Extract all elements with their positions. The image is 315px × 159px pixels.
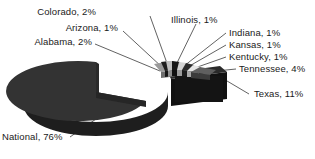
leader-line-indiana [184, 33, 226, 66]
slice-label-tennessee: Tennessee, 4% [239, 63, 305, 74]
slice-label-alabama: Alabama, 2% [34, 36, 92, 47]
slice-national-top [6, 61, 146, 121]
slice-label-arizona: Arizona, 1% [66, 22, 118, 33]
slice-label-illinois: Illinois, 1% [171, 14, 218, 25]
leader-line-alabama [95, 44, 160, 71]
slice-label-colorado: Colorado, 2% [37, 6, 96, 17]
slice-label-indiana: Indiana, 1% [229, 27, 280, 38]
slice-national [6, 61, 168, 136]
slice-label-national: National, 76% [2, 131, 62, 142]
slice-texas-face [175, 76, 223, 102]
slice-label-texas: Texas, 11% [254, 88, 303, 99]
slice-label-kansas: Kansas, 1% [229, 39, 281, 50]
slice-label-kentucky: Kentucky, 1% [229, 51, 288, 62]
pie-chart-figure: Colorado, 2% Illinois, 1% Arizona, 1% In… [0, 0, 315, 159]
slice-national-notch-face-a [96, 62, 99, 94]
